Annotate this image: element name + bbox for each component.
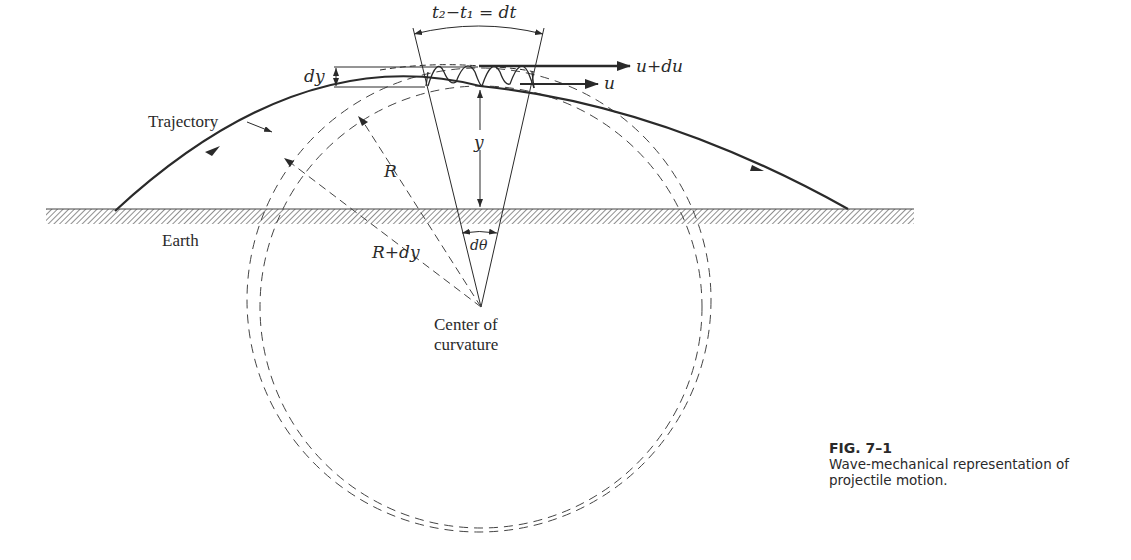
- figure-caption: FIG. 7–1 Wave-mechanical representation …: [829, 440, 1089, 488]
- center-of-curvature-label-2: curvature: [434, 335, 498, 354]
- figure-caption-text: Wave-mechanical representation of projec…: [829, 456, 1089, 488]
- time-interval-label: t₂−t₁ = dt: [432, 2, 516, 22]
- velocity-u-label: u: [604, 73, 615, 93]
- trajectory-label: Trajectory: [148, 112, 219, 131]
- earth-ground: [46, 209, 914, 224]
- figure-number: FIG. 7–1: [829, 440, 1089, 456]
- height-y-label: y: [473, 132, 484, 152]
- earth-label: Earth: [162, 231, 199, 250]
- dtheta-marker: [462, 232, 497, 234]
- radius-r-plus-dy-label: R+dy: [371, 242, 420, 262]
- center-of-curvature-label-1: Center of: [434, 315, 498, 334]
- velocity-u-plus-du-label: u+du: [636, 56, 683, 76]
- dy-label: dy: [304, 66, 325, 86]
- radius-r-label: R: [383, 161, 397, 181]
- dtheta-label: dθ: [470, 237, 488, 253]
- dt-wedge: [413, 26, 544, 307]
